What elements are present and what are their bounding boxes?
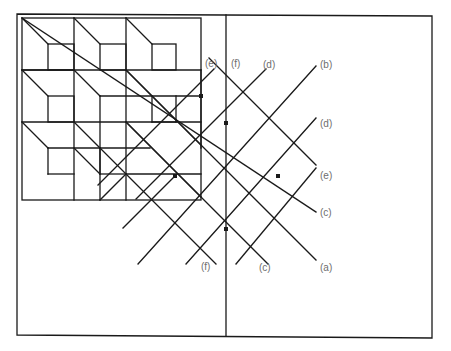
label-right-c: (c): [320, 208, 332, 218]
label-bottom-f: (f): [201, 262, 210, 272]
lattice-backslash-lines: [22, 18, 316, 264]
label-right-e: (e): [320, 171, 332, 181]
label-top-b: (b): [320, 60, 332, 70]
label-bottom-c: (c): [259, 263, 271, 273]
outer-frame: [17, 14, 432, 338]
label-right-a: (a): [320, 263, 332, 273]
label-top-d: (d): [263, 60, 275, 70]
label-top-e: (e): [205, 59, 217, 69]
label-top-f: (f): [231, 59, 240, 69]
tiling-diagram: [0, 0, 451, 351]
label-right-d: (d): [320, 119, 332, 129]
